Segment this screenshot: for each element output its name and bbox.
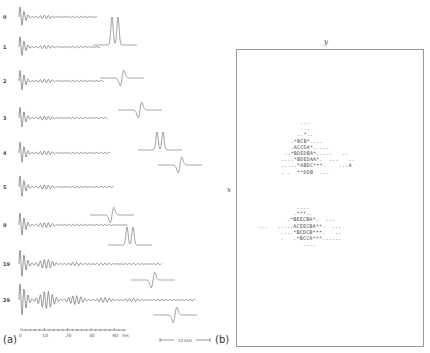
row-label: 3 — [3, 115, 6, 121]
time-axis — [21, 328, 126, 331]
image-map-frame — [236, 49, 424, 347]
spectrum-trace — [118, 102, 162, 117]
x-axis-label: x — [227, 186, 231, 194]
fid-trace — [19, 71, 104, 90]
spectrum-trace — [131, 272, 175, 287]
scale-bar-label: 10 kHz — [178, 338, 192, 343]
tick-label: 30 — [89, 333, 95, 338]
row-label: 19 — [3, 261, 10, 267]
spectrum-trace — [158, 157, 202, 172]
tick-label: 20 — [66, 333, 72, 338]
fid-trace — [19, 7, 97, 25]
fid-trace — [19, 213, 128, 235]
y-axis-label: y — [324, 38, 328, 46]
tick-label: 40 — [112, 333, 118, 338]
spectrum-trace — [100, 70, 144, 85]
row-label: 2 — [3, 78, 6, 84]
spectrum-trace — [90, 207, 134, 222]
row-label: 4 — [3, 150, 6, 156]
spectrum-trace — [108, 227, 152, 245]
fid-trace — [19, 284, 195, 315]
spectrum-trace — [93, 17, 137, 45]
tick-label: 0 — [19, 333, 22, 338]
fid-trace — [19, 142, 110, 162]
row-label: 29 — [3, 297, 10, 303]
fid-trace — [19, 176, 114, 196]
fid-trace — [19, 107, 107, 127]
tick-label: 10 — [42, 333, 48, 338]
spectra-traces — [90, 17, 210, 342]
lower-intensity-cluster: .... .***.. .*BEECBA*. ... ... .....ACEE… — [258, 204, 341, 247]
panel-b-label: (b) — [215, 334, 229, 345]
fid-trace — [19, 37, 100, 56]
upper-intensity-cluster: ... ... ..*.. .*BCB*.... .ACCDA*..... ..… — [281, 119, 355, 175]
row-label: 1 — [3, 44, 6, 50]
spectrum-trace — [138, 132, 182, 150]
row-label: 0 — [3, 14, 6, 20]
axis-unit: ms — [122, 333, 129, 338]
spectrum-trace — [153, 307, 197, 322]
panel-a-label: (a) — [3, 334, 17, 345]
fid-trace — [19, 250, 161, 276]
row-label: 5 — [3, 184, 6, 190]
fid-traces — [19, 7, 195, 315]
row-label: 9 — [3, 222, 6, 228]
